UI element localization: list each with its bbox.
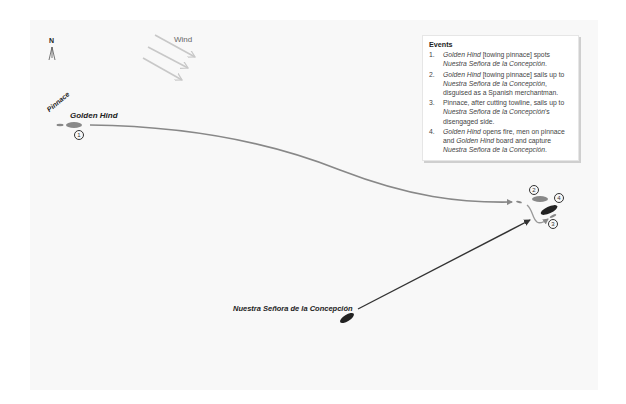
legend-list: 1.Golden Hind [towing pinnace] spots Nue…	[429, 50, 572, 154]
concepcion-route	[358, 220, 530, 309]
north-arrow-icon	[49, 47, 55, 60]
pinnace-ship-icon-final	[516, 200, 522, 203]
step-marker-1: 1	[74, 130, 84, 140]
legend-item-text: Golden Hind opens fire, men on pinnace a…	[443, 127, 572, 155]
concepcion-label: Nuestra Señora de la Concepción	[233, 304, 353, 313]
legend-item-number: 4.	[429, 127, 443, 155]
legend-item-text: Golden Hind [towing pinnace] sails up to…	[443, 70, 572, 98]
concepcion-ship-icon	[339, 311, 356, 325]
pinnace-ship-icon-boarding	[549, 213, 556, 218]
legend-item-text: Golden Hind [towing pinnace] spots Nuest…	[443, 50, 572, 68]
golden-hind-ship-icon	[66, 122, 82, 128]
step-marker-2: 2	[529, 185, 539, 195]
step-marker-4: 4	[554, 193, 564, 203]
legend-item: 1.Golden Hind [towing pinnace] spots Nue…	[429, 50, 572, 68]
wind-label: Wind	[174, 35, 192, 44]
legend-item: 2.Golden Hind [towing pinnace] sails up …	[429, 70, 572, 98]
legend-title: Events	[429, 40, 572, 49]
legend-item: 3.Pinnace, after cutting towline, sails …	[429, 98, 572, 126]
legend-item: 4.Golden Hind opens fire, men on pinnace…	[429, 127, 572, 155]
legend-item-text: Pinnace, after cutting towline, sails up…	[443, 98, 572, 126]
legend-item-number: 2.	[429, 70, 443, 98]
step-marker-3: 3	[548, 219, 558, 229]
events-legend: Events 1.Golden Hind [towing pinnace] sp…	[422, 35, 579, 161]
golden-hind-label: Golden Hind	[70, 111, 118, 120]
golden-hind-ship-icon-final	[532, 196, 548, 202]
pinnace-ship-icon	[57, 124, 64, 126]
north-label: N	[49, 37, 54, 44]
legend-item-number: 3.	[429, 98, 443, 126]
legend-item-number: 1.	[429, 50, 443, 68]
